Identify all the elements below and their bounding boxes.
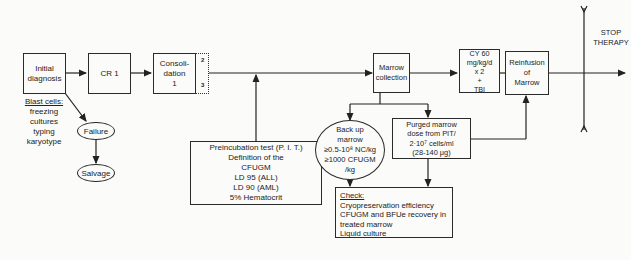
backup-line: /kg xyxy=(345,165,355,175)
blast-cells-item: cultures xyxy=(18,117,70,127)
salvage-node: Salvage xyxy=(77,164,115,182)
blast-cells-item: typing xyxy=(18,127,70,137)
backup-line: ≥0.5-10⁸ NC/kg xyxy=(324,145,376,155)
failure-node: Failure xyxy=(77,122,115,140)
check-box: Check: Cryopreservation efficiency CFUGM… xyxy=(335,187,453,238)
backup-marrow-circle: Back up marrow ≥0.5-10⁸ NC/kg ≥1000 CFUG… xyxy=(315,120,385,180)
cr1-box: CR 1 xyxy=(88,53,131,94)
reinfusion-box: Reinfusion of Marrow xyxy=(505,51,549,95)
check-item: Cryopreservation efficiency xyxy=(340,201,448,211)
preincubation-test-box: Preincubation test (P. I. T.) Definition… xyxy=(190,141,322,205)
conditioning-box: CY 60 mg/kg/d x 2 + TBI xyxy=(459,49,500,93)
backup-line: ≥1000 CFUGM xyxy=(324,155,375,165)
backup-line: Back up xyxy=(336,125,363,135)
blast-cells-note: Blast cells: freezing cultures typing ka… xyxy=(18,97,70,147)
blast-cells-item: karyotype xyxy=(18,137,70,147)
backup-line: marrow xyxy=(337,135,362,145)
blast-cells-heading: Blast cells: xyxy=(18,97,70,107)
check-item: treated marrow xyxy=(340,220,448,230)
cycle-mark-3: 3 xyxy=(201,82,204,88)
consolidation-box: Consoli- dation 1 xyxy=(153,53,196,94)
initial-diagnosis-box: Initial diagnosis xyxy=(23,53,66,94)
cycle-mark-2: 2 xyxy=(201,57,204,63)
purged-marrow-box: Purged marrow dose from PIT/ 2·10⁷ cells… xyxy=(392,118,471,159)
marrow-collection-box: Marrow collection xyxy=(373,53,410,93)
check-heading: Check: xyxy=(340,191,448,201)
check-item: Liquid culture xyxy=(340,229,448,239)
blast-cells-item: freezing xyxy=(18,107,70,117)
check-item: CFUGM and BFUe recovery in xyxy=(340,210,448,220)
stop-therapy-label: STOP THERAPY xyxy=(590,28,631,48)
